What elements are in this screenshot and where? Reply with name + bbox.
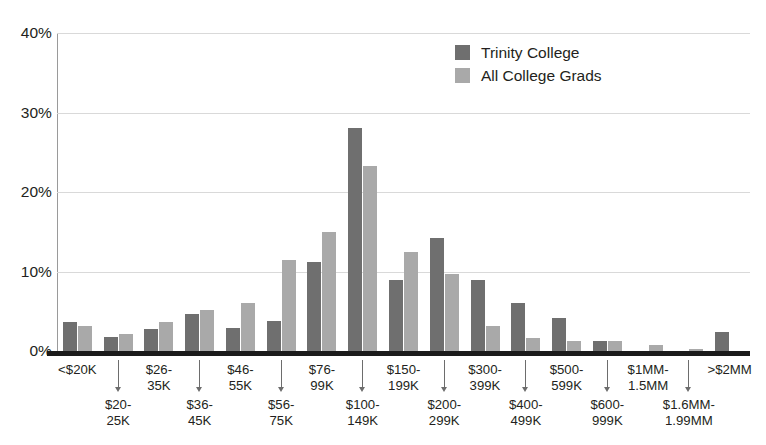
bar — [363, 166, 377, 351]
x-axis-label: $200- 299K — [400, 397, 488, 428]
bars-layer — [57, 33, 750, 351]
x-axis-label: $20- 25K — [74, 397, 162, 428]
bar-group — [674, 33, 703, 351]
x-axis-label: $300- 399K — [441, 362, 529, 393]
x-axis-label: $1MM- 1.5MM — [604, 362, 692, 393]
bar-group — [389, 33, 418, 351]
bar — [282, 260, 296, 351]
x-axis-label: $150- 199K — [360, 362, 448, 393]
bar-group — [307, 33, 336, 351]
bar-group — [348, 33, 377, 351]
bar — [430, 238, 444, 351]
bar-group — [634, 33, 663, 351]
bar — [226, 328, 240, 351]
y-tick-label-20: 20% — [4, 183, 52, 201]
bar — [267, 321, 281, 351]
bar — [486, 326, 500, 351]
x-axis-label: $26- 35K — [115, 362, 203, 393]
bar — [348, 128, 362, 351]
bar — [119, 334, 133, 351]
y-tick-label-10: 10% — [4, 263, 52, 281]
bar — [471, 280, 485, 351]
bar — [389, 280, 403, 351]
bar-group — [715, 33, 744, 351]
x-axis-label: $400- 499K — [482, 397, 570, 428]
bar — [567, 341, 581, 351]
x-axis-label: $100- 149K — [319, 397, 407, 428]
x-axis-label: <$20K — [33, 362, 121, 378]
bar-group — [104, 33, 133, 351]
bar — [511, 303, 525, 351]
x-axis-labels: <$20K$20- 25K$26- 35K$36- 45K$46- 55K$56… — [0, 357, 766, 445]
y-tick-label-40: 40% — [4, 24, 52, 42]
legend: Trinity College All College Grads — [455, 41, 602, 87]
plot-area — [57, 33, 750, 351]
legend-item-all-grads: All College Grads — [455, 64, 602, 87]
x-axis-label: $1.6MM- 1.99MM — [645, 397, 733, 428]
legend-label-all-grads: All College Grads — [481, 67, 602, 85]
bar — [63, 322, 77, 351]
x-axis-label: >$2MM — [686, 362, 766, 378]
bar-group — [185, 33, 214, 351]
bar — [241, 303, 255, 351]
bar — [593, 341, 607, 351]
x-axis-label: $46- 55K — [196, 362, 284, 393]
bar-group — [267, 33, 296, 351]
bar — [552, 318, 566, 351]
x-axis-label: $600- 999K — [563, 397, 651, 428]
bar — [200, 310, 214, 351]
bar-group — [63, 33, 92, 351]
bar — [608, 341, 622, 351]
legend-swatch-all-grads — [455, 68, 470, 83]
x-axis-label: $500- 599K — [523, 362, 611, 393]
x-axis-label: $76- 99K — [278, 362, 366, 393]
bar — [322, 232, 336, 351]
bar — [144, 329, 158, 351]
income-distribution-bar-chart: 0%10%20%30%40% Trinity College All Colle… — [0, 0, 766, 445]
legend-item-trinity: Trinity College — [455, 41, 602, 64]
bar — [104, 337, 118, 351]
bar-group — [144, 33, 173, 351]
x-axis-baseline — [47, 351, 750, 356]
bar-group — [226, 33, 255, 351]
bar — [715, 332, 729, 351]
bar — [526, 338, 540, 352]
bar — [404, 252, 418, 351]
x-axis-label: $56- 75K — [237, 397, 325, 428]
bar — [159, 322, 173, 351]
legend-label-trinity: Trinity College — [481, 44, 580, 62]
bar — [445, 274, 459, 351]
bar — [307, 262, 321, 351]
y-tick-label-30: 30% — [4, 104, 52, 122]
bar — [78, 326, 92, 351]
x-axis-label: $36- 45K — [156, 397, 244, 428]
legend-swatch-trinity — [455, 45, 470, 60]
bar — [185, 314, 199, 351]
